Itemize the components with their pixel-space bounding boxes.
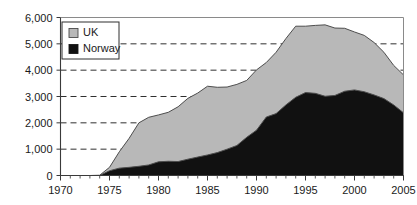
- x-tick-label-1985: 1985: [195, 184, 219, 196]
- stacked-area-chart: 01,0002,0003,0004,0005,0006,000 19701975…: [0, 0, 417, 205]
- chart-legend: UK Norway: [62, 22, 121, 59]
- x-tick-label-1975: 1975: [97, 184, 121, 196]
- legend-label-uk: UK: [83, 26, 99, 38]
- y-tick-label-3000: 3,000: [25, 91, 53, 103]
- legend-label-norway: Norway: [83, 42, 121, 54]
- chart-container: 01,0002,0003,0004,0005,0006,000 19701975…: [0, 0, 417, 205]
- x-tick-label-2000: 2000: [342, 184, 366, 196]
- x-tick-label-1990: 1990: [244, 184, 268, 196]
- y-tick-label-4000: 4,000: [25, 64, 53, 76]
- y-tick-label-2000: 2,000: [25, 117, 53, 129]
- x-tick-label-2005: 2005: [391, 184, 415, 196]
- x-tick-label-1970: 1970: [48, 184, 72, 196]
- y-tick-label-1000: 1,000: [25, 143, 53, 155]
- y-tick-label-6000: 6,000: [25, 12, 53, 24]
- y-tick-label-5000: 5,000: [25, 38, 53, 50]
- y-tick-label-0: 0: [46, 170, 52, 182]
- legend-swatch-uk: [69, 29, 78, 38]
- x-tick-label-1980: 1980: [146, 184, 170, 196]
- legend-swatch-norway: [69, 45, 78, 54]
- x-tick-label-1995: 1995: [293, 184, 317, 196]
